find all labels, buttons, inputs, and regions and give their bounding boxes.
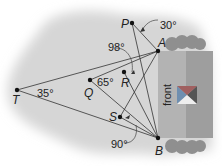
point-T [15, 88, 19, 92]
angle-label-r: 98° [108, 41, 125, 53]
angle-label-p: 30° [160, 19, 177, 31]
label-P: P [121, 17, 129, 31]
bottom-bushes [165, 139, 206, 154]
point-R [122, 70, 126, 74]
point-S [118, 115, 122, 119]
label-A: A [157, 36, 166, 50]
point-B [156, 136, 160, 140]
point-Q [88, 78, 92, 82]
angle-label-s: 90° [111, 138, 128, 150]
label-S: S [109, 110, 117, 124]
label-B: B [155, 144, 163, 158]
label-R: R [121, 76, 130, 90]
building-front-label: front [161, 84, 173, 106]
point-P [130, 21, 134, 25]
angle-label-q: 65° [97, 76, 114, 88]
building: front [158, 51, 213, 138]
roof-pyramid-icon [177, 86, 197, 104]
diagram: front P A R Q T S B 30° 9 [0, 0, 222, 166]
diagram-canvas: front P A R Q T S B 30° 9 [0, 0, 222, 166]
angle-label-t: 35° [37, 87, 54, 99]
label-Q: Q [84, 86, 93, 100]
